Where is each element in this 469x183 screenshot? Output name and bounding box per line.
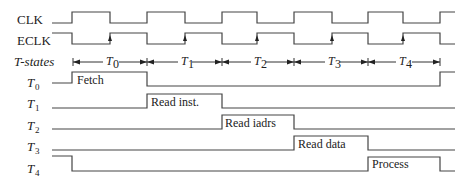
t-state-label-2: T 2 [254,54,267,71]
svg-text:1: 1 [35,103,40,113]
label-t0: T 0 [27,75,40,92]
eclk-waveform [52,33,455,44]
t-state-label-0: T 0 [106,54,119,71]
svg-text:T: T [27,75,35,90]
svg-text:4: 4 [35,168,40,178]
svg-text:2: 2 [261,57,267,71]
label-t1: T 1 [27,96,40,113]
svg-text:T: T [27,161,35,176]
svg-text:T: T [27,139,35,154]
t1-waveform [52,94,455,108]
t0-waveform [52,72,455,86]
arrow-up-icon [330,35,334,41]
svg-text:1: 1 [188,57,194,71]
t2-phase-label: Read iadrs [225,116,276,130]
svg-text:0: 0 [113,57,119,71]
svg-text:2: 2 [35,125,40,135]
t-state-label-1: T 1 [181,54,194,71]
t1-phase-label: Read inst. [151,95,199,109]
clk-waveform [52,12,455,23]
arrow-up-icon [401,35,405,41]
arrow-up-icon [183,35,187,41]
label-t2: T 2 [27,118,40,135]
label-clk: CLK [17,12,44,27]
svg-text:3: 3 [35,146,40,156]
svg-text:0: 0 [35,82,40,92]
svg-text:T: T [27,118,35,133]
arrow-up-icon [108,35,112,41]
t3-waveform [52,136,455,150]
arrow-up-icon [255,35,259,41]
timing-diagram: CLK ECLK T-states T 0 T 1 T 2 T 3 T 4 [0,0,469,183]
label-t4: T 4 [27,161,40,178]
label-eclk: ECLK [17,33,52,48]
t0-phase-label: Fetch [77,73,104,87]
t-state-label-4: T 4 [399,54,412,71]
label-t3: T 3 [27,139,40,156]
t-state-label-3: T 3 [328,54,341,71]
svg-text:3: 3 [335,57,341,71]
svg-text:4: 4 [406,57,412,71]
label-t-states: T-states [14,54,54,69]
t3-phase-label: Read data [298,137,346,151]
svg-text:T: T [27,96,35,111]
t4-phase-label: Process [372,157,409,171]
